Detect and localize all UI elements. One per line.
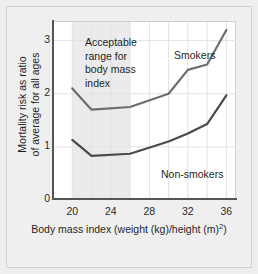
annotation-line-2: range for (85, 50, 159, 64)
y-axis-label: Mortality risk as ratio of average for a… (16, 15, 41, 195)
y-axis-label-line1: Mortality risk as ratio (16, 56, 28, 152)
acceptable-range-annotation: Acceptable range for body mass index (85, 36, 159, 90)
annotation-line-3: body mass (85, 63, 159, 77)
annotation-line-1: Acceptable (85, 36, 159, 50)
x-tick-36: 36 (211, 205, 241, 217)
series-label-non-smokers: Non-smokers (161, 168, 223, 180)
x-tick-28: 28 (134, 205, 164, 217)
x-axis-label-text: Body mass index (weight (kg)/height (m) (31, 223, 219, 235)
x-tick-24: 24 (96, 205, 126, 217)
x-tick-labels: 20 24 28 32 36 (0, 205, 258, 219)
series-label-smokers: Smokers (174, 49, 215, 61)
annotation-line-4: index (85, 77, 159, 91)
y-tick-0: 0 (28, 193, 50, 204)
y-axis-line (52, 20, 54, 200)
figure-container: 3 2 1 0 20 24 28 32 36 Body mass index (… (0, 0, 258, 274)
x-tick-32: 32 (173, 205, 203, 217)
x-tick-20: 20 (57, 205, 87, 217)
x-axis-line (52, 198, 237, 200)
x-axis-label: Body mass index (weight (kg)/height (m)2… (0, 223, 258, 235)
y-axis-label-line2: of average for all ages (28, 15, 41, 195)
x-axis-label-tail: ) (223, 223, 227, 235)
